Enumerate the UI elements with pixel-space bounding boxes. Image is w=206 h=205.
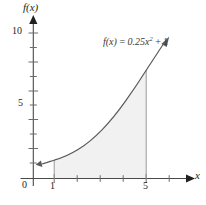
function-plot-figure: f(x) x 10 5 0 1 5 f(x) = 0.25x2 + 1 [0,0,206,205]
curve-left-arrowhead [36,161,43,167]
x-tick-label-1: 1 [50,181,55,191]
function-equation-label: f(x) = 0.25x2 + 1 [103,36,168,47]
x-axis-arrowhead [186,174,195,182]
origin-label: 0 [22,180,27,190]
x-axis-label: x [195,170,200,181]
equation-fx: f(x) [103,36,117,47]
shaded-area-under-curve [54,70,146,178]
y-axis-arrowhead [29,15,37,24]
y-axis-label: f(x) [23,2,38,13]
y-tick-label-5: 5 [18,98,23,108]
equation-equals: = [117,36,128,47]
equation-tail: + 1 [153,36,169,47]
y-tick-label-10: 10 [12,26,22,36]
x-tick-label-5: 5 [143,181,148,191]
equation-coefficient: 0.25x [128,36,150,47]
plot-canvas [0,0,206,205]
